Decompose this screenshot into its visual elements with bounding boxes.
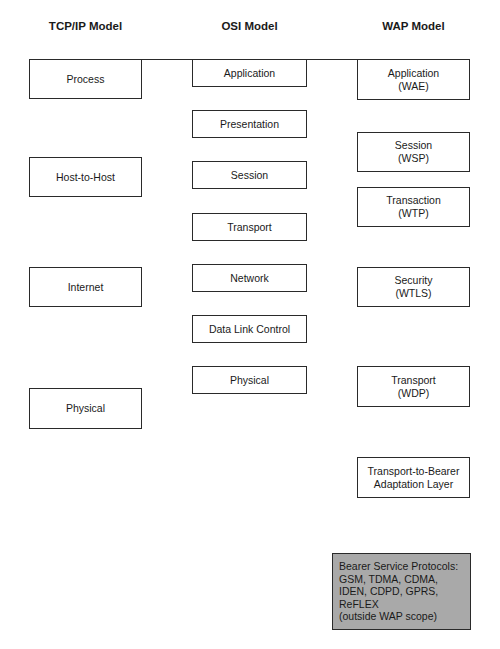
wap-layer-transaction-wtp: Transaction (WTP) — [357, 187, 470, 227]
tcpip-layer-host-to-host: Host-to-Host — [29, 157, 142, 197]
osi-model-title: OSI Model — [192, 20, 307, 32]
tcpip-model-title: TCP/IP Model — [29, 20, 142, 32]
wap-layer-session-wsp: Session (WSP) — [357, 132, 470, 172]
tcpip-layer-internet: Internet — [29, 267, 142, 307]
osi-layer-data-link-control: Data Link Control — [192, 315, 307, 343]
osi-layer-transport: Transport — [192, 213, 307, 241]
osi-layer-application: Application — [192, 59, 307, 87]
bearer-service-protocols: Bearer Service Protocols: GSM, TDMA, CDM… — [332, 553, 471, 630]
osi-layer-physical: Physical — [192, 366, 307, 394]
wap-model-title: WAP Model — [357, 20, 470, 32]
tcpip-layer-physical: Physical — [29, 388, 142, 429]
wap-layer-security-wtls: Security (WTLS) — [357, 267, 470, 307]
wap-layer-application-wae: Application (WAE) — [357, 59, 470, 100]
tcpip-layer-process: Process — [29, 59, 142, 99]
osi-layer-session: Session — [192, 161, 307, 189]
wap-layer-transport-to-bearer: Transport-to-Bearer Adaptation Layer — [357, 457, 470, 498]
osi-layer-network: Network — [192, 264, 307, 292]
wap-layer-transport-wdp: Transport (WDP) — [357, 366, 470, 407]
osi-layer-presentation: Presentation — [192, 110, 307, 138]
